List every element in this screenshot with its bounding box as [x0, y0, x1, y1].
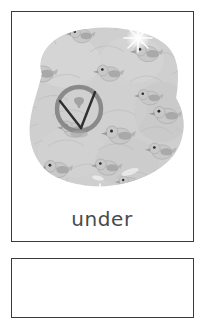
bird-blob	[23, 22, 190, 200]
flashcard-primary[interactable]: under	[11, 11, 194, 242]
flashcard-secondary[interactable]	[11, 258, 194, 318]
illustration-svg	[12, 12, 192, 200]
illustration-flock-of-birds	[12, 12, 192, 200]
word-label-row: under	[12, 198, 192, 240]
sparkle-icon-right	[163, 173, 181, 191]
sparkle-icon-top	[124, 24, 152, 52]
vocabulary-word: under	[71, 209, 133, 229]
